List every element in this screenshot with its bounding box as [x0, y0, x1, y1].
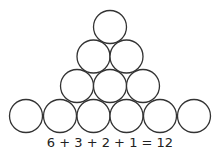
- circle-row4-6: [178, 100, 211, 133]
- circle-row4-2: [44, 100, 77, 133]
- circle-row4-3: [77, 100, 110, 133]
- circle-row4-5: [144, 100, 177, 133]
- circle-row3-1: [61, 70, 94, 103]
- circle-row2-2: [110, 40, 143, 73]
- circle-row3-2: [94, 70, 127, 103]
- equation-caption: 6 + 3 + 2 + 1 = 12: [0, 135, 220, 150]
- circle-diagram: [0, 0, 220, 156]
- circle-row2-1: [77, 40, 110, 73]
- circle-row4-1: [10, 100, 43, 133]
- circle-row3-3: [127, 70, 160, 103]
- circle-row4-4: [110, 100, 143, 133]
- circle-row1-1: [94, 11, 127, 44]
